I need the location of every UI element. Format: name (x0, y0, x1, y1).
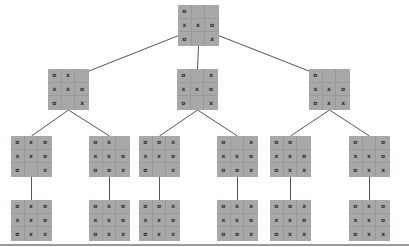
board-cell: x (205, 32, 219, 46)
board-cell: x (309, 83, 323, 97)
board-cell (191, 96, 205, 110)
board-cell: o (217, 200, 231, 214)
board-cell: o (89, 163, 103, 177)
board-cell: x (284, 214, 298, 228)
board-cell: x (204, 69, 218, 83)
board-cell: x (38, 227, 52, 241)
board-cell: x (231, 214, 245, 228)
board-cell: o (376, 150, 390, 164)
board-cell: x (89, 150, 103, 164)
board-cell (297, 136, 311, 150)
board-cell: o (103, 163, 117, 177)
board-cell: o (139, 227, 153, 241)
board-cell: x (363, 150, 377, 164)
board-cell: o (284, 200, 298, 214)
board-cell: x (48, 83, 62, 97)
board-cell: o (231, 227, 245, 241)
board-cell: x (25, 227, 39, 241)
tree-edge (69, 110, 110, 136)
board-cell: x (153, 227, 167, 241)
board-cell: o (177, 96, 191, 110)
board-cell (153, 163, 167, 177)
board-cell: o (166, 214, 180, 228)
board-cell: o (11, 227, 25, 241)
board-cell: o (38, 214, 52, 228)
board-cell: o (376, 136, 390, 150)
board-cell: x (103, 136, 117, 150)
board-cell (192, 32, 206, 46)
bottom-divider (0, 244, 409, 246)
board-cell: o (38, 136, 52, 150)
board-cell: o (153, 200, 167, 214)
board-cell: x (166, 200, 180, 214)
board-cell: x (349, 150, 363, 164)
board-cell: x (297, 163, 311, 177)
board-cell: x (363, 163, 377, 177)
board-cell: x (177, 83, 191, 97)
board-cell (192, 5, 206, 19)
board-l2c: oxxooxx (309, 69, 350, 110)
board-cell: x (363, 200, 377, 214)
board-cell: x (75, 96, 89, 110)
board-cell: o (217, 227, 231, 241)
board-cell: o (116, 200, 130, 214)
board-cell: x (103, 214, 117, 228)
board-l3f: ooxxooxx (349, 136, 390, 177)
board-cell: x (204, 96, 218, 110)
tree-edge (330, 110, 370, 136)
board-cell: o (217, 163, 231, 177)
board-cell: x (25, 200, 39, 214)
board-cell: o (89, 227, 103, 241)
board-cell: x (244, 227, 258, 241)
board-l2b: oxxxoox (177, 69, 218, 110)
tree-edge (198, 110, 238, 136)
board-cell (336, 69, 350, 83)
board-cell: x (166, 163, 180, 177)
tree-edge (291, 110, 330, 136)
board-cell (231, 136, 245, 150)
board-cell: x (336, 96, 350, 110)
board-cell: x (25, 136, 39, 150)
board-cell: x (139, 214, 153, 228)
board-cell: o (116, 150, 130, 164)
board-cell: x (192, 19, 206, 33)
game-tree-diagram: oxxooxoxxxooxoxxxooxoxxooxxoxoxxooxoxxxo… (0, 0, 409, 247)
board-cell: x (191, 83, 205, 97)
board-cell (62, 96, 76, 110)
board-cell: o (349, 163, 363, 177)
board-cell: x (153, 150, 167, 164)
board-l3d: oxxxooox (217, 136, 258, 177)
board-l3c: ooxxxoox (139, 136, 180, 177)
board-cell: o (38, 150, 52, 164)
board-cell: o (270, 227, 284, 241)
board-cell: x (349, 214, 363, 228)
board-cell: o (38, 200, 52, 214)
board-cell (75, 69, 89, 83)
tree-edge (89, 36, 178, 71)
board-cell: o (11, 200, 25, 214)
board-cell: x (103, 227, 117, 241)
board-root: oxxoox (178, 5, 219, 46)
board-cell: o (177, 69, 191, 83)
board-cell: x (244, 163, 258, 177)
board-l4c: ooxxxooxx (139, 200, 180, 241)
board-cell: x (270, 214, 284, 228)
board-cell: x (217, 214, 231, 228)
board-cell: x (103, 200, 117, 214)
board-cell: x (25, 150, 39, 164)
board-cell: o (244, 150, 258, 164)
board-cell (363, 136, 377, 150)
board-cell: x (323, 96, 337, 110)
board-cell: x (166, 136, 180, 150)
board-cell: x (231, 200, 245, 214)
board-l4b: oxoxxooxx (89, 200, 130, 241)
board-cell (205, 5, 219, 19)
board-cell: o (89, 136, 103, 150)
board-cell: x (116, 163, 130, 177)
board-cell: o (376, 214, 390, 228)
board-cell: o (139, 136, 153, 150)
board-cell (25, 163, 39, 177)
board-cell: o (284, 136, 298, 150)
board-cell: x (103, 150, 117, 164)
tree-edge (198, 46, 199, 69)
